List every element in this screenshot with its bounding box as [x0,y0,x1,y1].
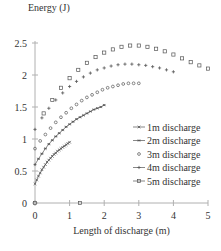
square-marker [103,51,106,54]
asterisk-marker [58,132,61,134]
circle-marker [39,140,42,143]
circle-marker [138,153,141,156]
square-marker [94,55,97,58]
circle-marker [70,107,73,110]
energy-chart: 00.511.522.5012345 1m discharge2m discha… [0,0,221,251]
plus-marker [68,85,71,88]
circle-marker [111,85,114,88]
asterisk-marker [68,123,71,125]
asterisk-marker [89,110,92,112]
asterisk-marker [47,143,50,145]
asterisk-marker [54,135,57,137]
series-1m-discharge [34,141,71,185]
plus-marker [82,75,85,78]
asterisk-marker [44,148,47,150]
plus-marker [137,166,140,169]
plus-marker [89,71,92,74]
plus-marker [144,64,147,67]
circle-marker [137,82,140,85]
asterisk-marker [51,139,54,141]
x-marker [42,166,45,169]
circle-marker [106,86,109,89]
plus-marker [103,66,106,69]
square-marker [42,112,45,115]
plus-marker [96,68,99,71]
asterisk-marker [138,139,141,141]
legend-item: 3m discharge [138,149,201,160]
asterisk-marker [72,121,75,123]
asterisk-marker [75,118,78,120]
circle-marker [75,103,78,106]
asterisk-marker [37,158,40,160]
circle-marker [65,111,68,114]
legend: 1m discharge2m discharge3m discharge4m d… [133,122,201,187]
legend-item: 4m discharge [133,162,201,173]
legend-item: 5m discharge [133,176,201,187]
x-marker [44,163,47,166]
x-tick-label: 2 [102,210,107,221]
square-marker [120,45,123,48]
plus-marker [47,107,50,110]
series-3m-discharge [34,82,141,150]
asterisk-marker [96,107,99,109]
plus-marker [61,91,64,94]
square-marker [172,53,175,56]
plus-marker [151,65,154,68]
plus-marker [116,63,119,66]
x-marker [35,179,38,182]
circle-marker [86,96,89,99]
x-tick-label: 5 [206,210,211,221]
y-tick-label: 0.5 [15,166,28,177]
square-marker [77,68,80,71]
asterisk-marker [99,106,102,108]
square-marker [137,44,140,47]
circle-marker [117,84,120,87]
plus-marker [110,64,113,67]
square-marker [85,61,88,64]
asterisk-marker [40,153,43,155]
y-tick-label: 1 [22,134,27,145]
square-marker [59,86,62,89]
circle-marker [80,99,83,102]
circle-marker [91,93,94,96]
plus-marker [165,68,168,71]
asterisk-marker [78,116,81,118]
legend-label: 2m discharge [147,135,201,146]
x-tick-label: 0 [33,210,38,221]
circle-marker [96,91,99,94]
circle-marker [44,133,47,136]
square-marker [189,61,192,64]
x-tick-label: 3 [136,210,141,221]
plus-marker [137,63,140,66]
y-tick-label: 1.5 [15,102,28,113]
plus-marker [75,80,78,83]
plus-marker [54,98,57,101]
asterisk-marker [103,104,106,106]
square-marker [198,64,201,67]
legend-label: 1m discharge [147,122,201,133]
plus-marker [130,63,133,66]
circle-marker [49,127,52,130]
plus-marker [158,66,161,69]
square-marker [51,98,54,101]
x-tick-label: 4 [171,210,176,221]
x-marker [39,172,42,175]
x-marker [41,168,44,171]
y-tick-label: 2.5 [15,38,28,49]
legend-label: 3m discharge [147,149,201,160]
legend-label: 5m discharge [147,176,201,187]
square-marker [129,44,132,47]
square-marker [155,47,158,50]
circle-marker [132,82,135,85]
square-marker [146,45,149,48]
asterisk-marker [82,114,85,116]
y-tick-label: 2 [22,70,27,81]
legend-label: 4m discharge [147,162,201,173]
square-marker [111,48,114,51]
circle-marker [122,83,125,86]
square-marker [206,67,209,70]
x-marker [37,175,40,178]
plus-marker [40,116,43,119]
plus-marker [123,63,126,66]
x-tick-label: 1 [67,210,72,221]
